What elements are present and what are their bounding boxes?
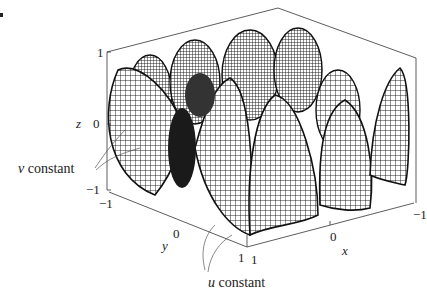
y-axis-label: y — [162, 239, 168, 252]
v-constant-annotation: v constant — [18, 162, 74, 176]
y-tick-neg1: −1 — [99, 197, 113, 210]
z-tick-neg1: −1 — [86, 183, 100, 196]
y-tick-0: 0 — [173, 227, 180, 240]
x-tick-neg1: −1 — [413, 208, 427, 221]
z-tick-1: 1 — [97, 46, 104, 59]
x-axis-label: x — [342, 244, 348, 257]
u-constant-text: constant — [215, 275, 265, 290]
x-tick-1: 1 — [251, 253, 258, 266]
z-axis-label: z — [76, 117, 81, 130]
u-constant-annotation: u constant — [208, 276, 265, 290]
v-constant-text: constant — [24, 161, 74, 176]
y-tick-1: 1 — [238, 251, 245, 264]
x-tick-0: 0 — [330, 230, 337, 243]
z-tick-0: 0 — [93, 117, 100, 130]
u-var: u — [208, 275, 215, 290]
